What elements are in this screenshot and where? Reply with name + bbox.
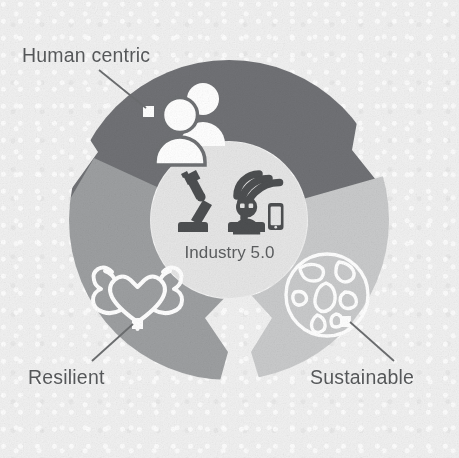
industry-5-cycle-diagram xyxy=(0,0,459,458)
label-sustainable: Sustainable xyxy=(310,366,414,389)
label-resilient: Resilient xyxy=(28,366,105,389)
label-human-centric: Human centric xyxy=(22,44,150,67)
center-caption-industry-5-0: Industry 5.0 xyxy=(0,243,459,263)
paper-grain-overlay xyxy=(0,0,459,458)
diagram-canvas: Human centric Resilient Sustainable Indu… xyxy=(0,0,459,458)
